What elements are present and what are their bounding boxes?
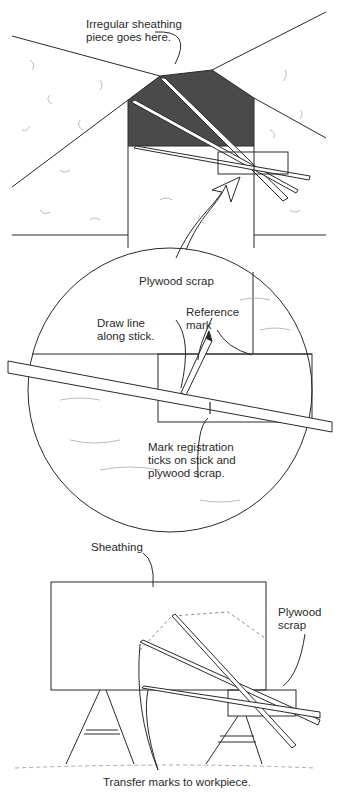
middle-panel [8,248,332,532]
label-mark-registration: Mark registration ticks on stick and ply… [148,441,236,480]
label-reference-mark: Reference mark [186,306,239,332]
label-plywood-scrap-bottom: Plywood scrap [278,606,321,632]
label-transfer-marks: Transfer marks to workpiece. [103,776,251,789]
label-plywood-scrap-middle: Plywood scrap [139,275,214,288]
top-panel [12,12,326,258]
illustration [0,0,340,794]
label-sheathing: Sheathing [91,541,143,554]
diagram-canvas: Irregular sheathing piece goes here. Ply… [0,0,340,794]
bottom-panel [15,553,320,770]
label-irregular-sheathing: Irregular sheathing piece goes here. [86,18,182,44]
label-draw-line: Draw line along stick. [97,317,155,343]
